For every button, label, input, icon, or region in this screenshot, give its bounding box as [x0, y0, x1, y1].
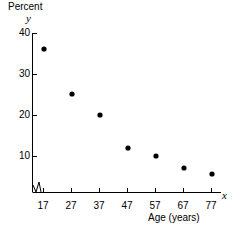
data-point	[125, 145, 130, 150]
data-points	[41, 46, 214, 176]
data-point	[69, 91, 74, 96]
axis-break-icon	[33, 182, 41, 192]
data-point	[181, 165, 186, 170]
y-axis	[33, 33, 38, 192]
data-point	[153, 153, 158, 158]
x-axis	[33, 188, 222, 193]
plot-canvas	[0, 0, 233, 229]
data-point	[209, 171, 214, 176]
data-point	[41, 46, 46, 51]
data-point	[97, 112, 102, 117]
scatter-plot-figure: Percent y x Age (years) 40 30 20 10 17 2…	[0, 0, 233, 229]
